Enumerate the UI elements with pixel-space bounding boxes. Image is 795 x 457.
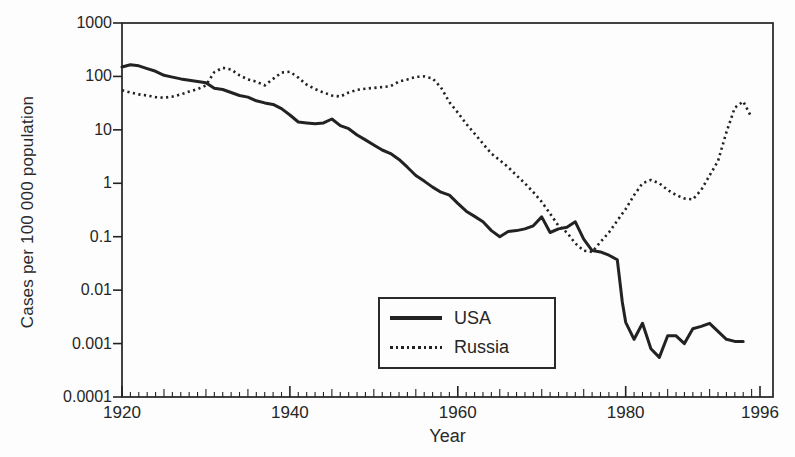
legend-label-russia: Russia xyxy=(454,337,509,358)
legend-entry-russia: Russia xyxy=(390,337,544,358)
legend-entry-usa: USA xyxy=(390,308,544,329)
legend: USA Russia xyxy=(378,297,556,369)
y-tick-label: 0.01 xyxy=(20,281,112,299)
russia-dotted-line-swatch xyxy=(390,346,442,349)
russia-line xyxy=(122,68,752,252)
x-tick-label: 1940 xyxy=(260,403,320,423)
x-tick-label: 1920 xyxy=(92,403,152,423)
y-tick-label: 100 xyxy=(20,67,112,85)
x-axis-title: Year xyxy=(122,426,773,447)
y-tick-label: 0.1 xyxy=(20,228,112,246)
y-tick-label: 10 xyxy=(20,121,112,139)
plot-area xyxy=(0,0,795,457)
chart-figure: Cases per 100 000 population Year 100010… xyxy=(0,0,795,457)
y-tick-label: 1 xyxy=(20,174,112,192)
x-tick-label: 1960 xyxy=(428,403,488,423)
usa-solid-line-swatch xyxy=(390,316,442,320)
y-tick-label: 1000 xyxy=(20,14,112,32)
x-tick-label: 1980 xyxy=(596,403,656,423)
x-tick-label: 1996 xyxy=(730,403,790,423)
y-axis-title: Cases per 100 000 population xyxy=(18,56,38,368)
legend-label-usa: USA xyxy=(454,308,491,329)
y-tick-label: 0.001 xyxy=(20,335,112,353)
